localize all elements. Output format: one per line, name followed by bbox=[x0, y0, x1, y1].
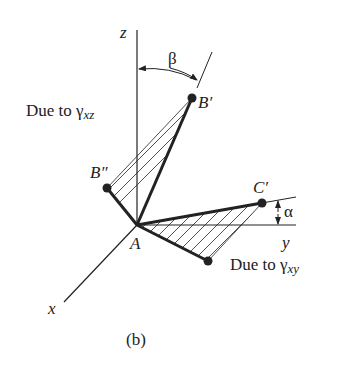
z-axis-label: z bbox=[119, 23, 127, 42]
annotation-xz-prefix: Due to bbox=[26, 101, 76, 120]
hatch-xy bbox=[80, 190, 300, 290]
point-bprime bbox=[188, 94, 197, 103]
shear-strain-diagram: z y x A B′ B″ C′ β α Due to γxz Due to γ… bbox=[0, 0, 340, 374]
line-a-cprime bbox=[137, 203, 262, 225]
annotation-xy-subscript: xy bbox=[287, 261, 300, 276]
bprime-extension bbox=[197, 52, 212, 88]
line-a-cdoubleprime bbox=[137, 225, 208, 261]
x-axis bbox=[64, 225, 137, 302]
label-bprime: B′ bbox=[198, 93, 212, 112]
b-edge bbox=[107, 98, 192, 188]
label-bdoubleprime: B″ bbox=[90, 163, 108, 182]
figure-caption: (b) bbox=[126, 330, 146, 349]
annotation-xy: Due to γxy bbox=[230, 255, 299, 276]
label-cprime: C′ bbox=[253, 178, 268, 197]
annotation-xz: Due to γxz bbox=[26, 101, 94, 122]
line-a-bdoubleprime bbox=[107, 188, 137, 225]
label-alpha: α bbox=[284, 202, 293, 221]
point-bdoubleprime bbox=[103, 184, 112, 193]
x-axis-label: x bbox=[47, 299, 56, 318]
y-axis-label: y bbox=[280, 233, 290, 252]
annotation-xy-prefix: Due to bbox=[230, 255, 280, 274]
label-a: A bbox=[129, 234, 141, 253]
label-beta: β bbox=[168, 49, 177, 68]
point-cdoubleprime bbox=[204, 257, 213, 266]
annotation-xz-subscript: xz bbox=[83, 107, 95, 122]
point-cprime bbox=[258, 199, 267, 208]
line-a-bprime bbox=[137, 98, 192, 225]
